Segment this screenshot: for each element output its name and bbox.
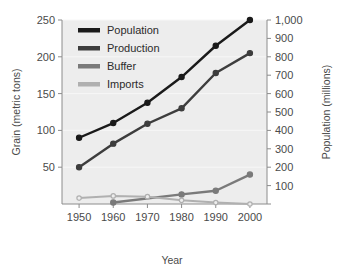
legend-label: Production [107,42,160,54]
data-point [111,141,116,146]
y-tick-label-left: 200 [37,51,55,63]
data-point [76,165,81,170]
data-point [213,43,218,48]
y-tick-label-right: 100 [275,180,293,192]
data-point [247,17,252,22]
data-point [179,198,183,202]
x-axis-title: Year [161,254,183,266]
data-point [111,120,116,125]
data-point [145,194,149,198]
y-tick-label-right: 800 [275,51,293,63]
data-point [76,135,81,140]
y-tick-label-right: 200 [275,161,293,173]
data-point [145,121,150,126]
legend-label: Imports [107,78,144,90]
legend-label: Buffer [107,60,136,72]
x-tick-label: 1990 [204,211,228,223]
data-point [179,192,184,197]
chart-container: 195019601970198019902000 50100150200250 … [0,0,345,275]
y-tick-label-right: 1,000 [275,14,303,26]
y-tick-label-right: 600 [275,88,293,100]
legend-swatch [78,64,100,69]
y-tick-label-right: 500 [275,106,293,118]
data-point [179,106,184,111]
x-tick-label: 1950 [67,211,91,223]
data-point [213,188,218,193]
data-point [247,51,252,56]
x-tick-label: 1970 [135,211,159,223]
data-point [179,74,184,79]
y-axis-title-right: Population (millions) [320,65,332,160]
y-tick-label-left: 100 [37,124,55,136]
y-tick-label-right: 400 [275,124,293,136]
grain-population-line-chart: 195019601970198019902000 50100150200250 … [0,0,345,275]
data-point [145,100,150,105]
y-tick-label-left: 150 [37,88,55,100]
legend-swatch [78,82,100,87]
data-point [214,200,218,204]
x-tick-label: 1980 [169,211,193,223]
legend-swatch [78,46,100,51]
y-tick-label-left: 50 [43,161,55,173]
y-tick-label-right: 300 [275,143,293,155]
data-point [77,196,81,200]
y-tick-label-left: 250 [37,14,55,26]
y-tick-label-right: 900 [275,32,293,44]
legend-swatch [78,28,100,33]
x-tick-label: 2000 [238,211,262,223]
data-point [247,172,252,177]
y-tick-label-right: 700 [275,69,293,81]
data-point [111,200,116,205]
y-axis-title-left: Grain (metric tons) [10,69,22,156]
data-point [248,202,252,206]
data-point [213,70,218,75]
legend-label: Population [107,24,159,36]
x-tick-label: 1960 [101,211,125,223]
data-point [111,194,115,198]
